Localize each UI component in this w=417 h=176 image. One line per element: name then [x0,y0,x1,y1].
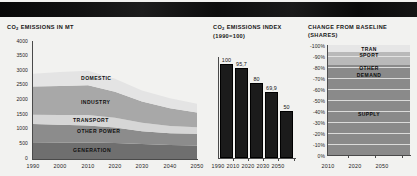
top-banner-bar [0,2,417,17]
y-tick-2000: 2000 [2,96,28,102]
x-tick-cb-2050: 2050 [369,163,395,169]
area-chart-svg [33,41,197,159]
gridline-50 [328,100,410,101]
y-axis-line-3 [327,45,328,156]
y-tick-neg30: -30% [299,120,325,126]
x-tickmark3-3 [402,155,403,158]
chart-panel-emissions-index: CO2 Emissions Index(1990=100) 100 95,7 8… [205,17,301,176]
y-axis-line-1 [32,41,33,160]
bar-value-2050: 50 [278,104,295,110]
x-tickmark-5 [294,158,295,161]
chart-title-emissions-mt: CO2 Emissions in Mt [7,24,74,33]
x-tick-2000: 2000 [48,163,72,169]
x-tickmark-3 [263,158,264,161]
x-tickmark-1 [233,158,234,161]
gridline-20 [328,133,410,134]
chart-title-line1-3: Change from Baseline [308,24,387,30]
x-tickmark3-2 [375,155,376,158]
y-tick-neg100: -100% [299,43,325,49]
band-label-transport-line2: sport [328,52,410,58]
gridline-10 [328,144,410,145]
area-label-other-power-text: Other Power [77,128,120,134]
gridline-30 [328,122,410,123]
band-label-other-demand-line1: Other [328,65,410,71]
x-tick-2020: 2020 [103,163,127,169]
y-tick-2500: 2500 [2,81,28,87]
chart-title-line2-2: (1990=100) [213,33,282,41]
bar-2030 [265,92,278,158]
bar-2010 [235,68,248,158]
x-tick-cb-2020: 2020 [342,163,368,169]
chart-title-co2: CO [7,24,16,30]
gridline-70 [328,78,410,79]
y-tick-3500: 3500 [2,52,28,58]
y-tick-0pct: 0% [299,153,325,159]
chart-title-change-baseline: Change from Baseline(shares) [308,24,387,39]
y-tick-0: 0 [2,155,28,161]
x-tick-2040: 2040 [158,163,182,169]
area-chart-emissions-mt: Domestic Industry Transport Other Power … [33,41,197,159]
y-tick-1000: 1000 [2,125,28,131]
y-tick-neg20: -20% [299,131,325,137]
x-tickmark-2 [248,158,249,161]
band-label-other-demand-line2: Demand [328,72,410,78]
x-axis-line-3 [327,155,411,156]
gridline-60 [328,89,410,90]
y-axis-line-2 [218,57,219,159]
chart-title-rest: Emissions in Mt [19,24,74,30]
chart-panel-change-baseline: Change from Baseline(shares) Tran sport … [301,17,417,176]
x-tickmark3-1 [348,155,349,158]
chart-title-co2-2: CO [213,24,222,30]
bar-value-2030: 69,9 [262,85,281,91]
y-tick-neg10: -10% [299,142,325,148]
bar-value-2020: 80 [248,76,265,82]
y-tick-neg80: -80% [299,65,325,71]
area-label-domestic: Domestic [81,75,111,81]
area-label-transport: Transport [73,117,109,123]
area-chart-change-baseline: Tran sport Other Demand Supply [328,45,410,155]
y-tick-neg70: -70% [299,76,325,82]
x-tick-1990: 1990 [21,163,45,169]
area-label-generation: Generation [73,147,111,153]
x-tickmark-4 [278,158,279,161]
band-label-supply: Supply [328,111,410,117]
y-tick-4000: 4000 [2,38,28,44]
x-tick-2030: 2030 [130,163,154,169]
chart-panel-emissions-mt: CO2 Emissions in Mt Domestic Industry Tr… [0,17,205,176]
chart-title-emissions-index: CO2 Emissions Index(1990=100) [213,24,282,40]
bar-1990 [220,64,233,158]
y-tick-3000: 3000 [2,67,28,73]
bar-2050 [280,111,293,158]
area-label-other-power: Other Power [77,128,117,134]
x-tick-idx-2050: 2050 [269,163,287,169]
x-axis-line-1 [32,159,198,160]
area-label-industry: Industry [81,99,110,105]
x-axis-line-2 [218,158,296,159]
chart-title-rest-2: Emissions Index [225,24,282,30]
bar-2020 [250,83,263,158]
bar-value-2010: 95,7 [232,61,251,67]
y-tick-1500: 1500 [2,111,28,117]
y-tick-neg90: -90% [299,54,325,60]
y-tick-neg50: -50% [299,98,325,104]
y-tick-500: 500 [2,140,28,146]
x-tick-2010: 2010 [76,163,100,169]
bar-chart-emissions-index: 100 95,7 80 69,9 50 [219,57,294,158]
y-tick-neg40: -40% [299,109,325,115]
x-tick-cb-2010: 2010 [315,163,341,169]
y-tick-neg60: -60% [299,87,325,93]
chart-title-line2-3: (shares) [308,32,387,40]
